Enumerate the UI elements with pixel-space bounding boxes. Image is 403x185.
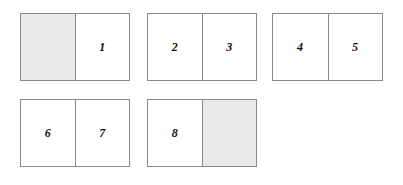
shaded-cell[interactable] [202,100,256,166]
cell-label: 7 [99,127,105,139]
cell-pair: 1 [20,13,130,81]
cell-label: 1 [99,41,105,53]
cell[interactable]: 1 [75,14,129,80]
cell-pair: 67 [20,99,130,167]
cell-pair: 23 [147,13,257,81]
cell-label: 4 [297,41,303,53]
cell[interactable]: 5 [328,14,383,80]
cell[interactable]: 3 [202,14,256,80]
cell[interactable]: 7 [75,100,129,166]
cell-label: 2 [172,41,178,53]
diagram-canvas: 12345678 [0,0,403,185]
cell[interactable]: 4 [273,14,328,80]
cell[interactable]: 6 [21,100,75,166]
cell-label: 3 [226,41,232,53]
cell-label: 8 [172,127,178,139]
cell[interactable]: 2 [148,14,202,80]
cell-pair: 45 [272,13,383,81]
shaded-cell[interactable] [21,14,75,80]
cell-label: 6 [45,127,51,139]
cell[interactable]: 8 [148,100,202,166]
cell-pair: 8 [147,99,257,167]
cell-label: 5 [352,41,358,53]
